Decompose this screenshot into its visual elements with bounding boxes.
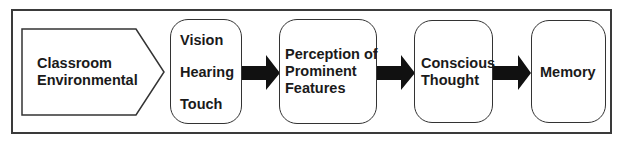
node-conscious-line-1: Conscious <box>421 55 495 72</box>
node-conscious-text: Conscious Thought <box>421 55 495 89</box>
node-conscious-line-2: Thought <box>421 72 495 89</box>
node-perception-line-3: Features <box>285 80 378 97</box>
node-perception-line-1: Perception of <box>285 46 378 63</box>
node-classroom-line-2: Environmental <box>37 72 138 89</box>
node-perception-text: Perception of Prominent Features <box>285 46 378 97</box>
node-senses-line-2: Hearing <box>180 64 234 81</box>
node-classroom: Classroom Environmental <box>37 55 138 89</box>
arrow-conscious-to-memory-icon <box>493 55 531 90</box>
node-memory-line-1: Memory <box>540 64 596 81</box>
node-perception-line-2: Prominent <box>285 63 378 80</box>
node-senses-line-3: Touch <box>180 96 222 113</box>
node-classroom-line-1: Classroom <box>37 55 138 72</box>
arrow-perception-to-conscious-icon <box>377 55 415 90</box>
arrow-senses-to-perception-icon <box>242 55 280 90</box>
node-senses-line-1: Vision <box>180 32 223 49</box>
